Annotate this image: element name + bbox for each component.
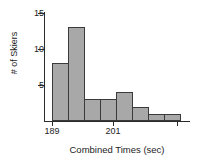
- x-axis-title: Combined Times (sec): [44, 144, 190, 155]
- bar-bin-1: [52, 63, 69, 121]
- y-axis-title: # of Skiers: [9, 15, 19, 91]
- bar-series: [0, 0, 201, 164]
- bar-bin-5: [116, 92, 133, 121]
- bar-bin-3: [84, 99, 101, 121]
- bar-bin-7: [148, 114, 165, 121]
- bar-bin-8: [164, 114, 181, 121]
- bar-bin-4: [100, 99, 117, 121]
- plot-area: 15 10 5 189 201 # of Ski: [0, 0, 201, 164]
- bar-bin-2: [68, 27, 85, 121]
- bar-bin-6: [132, 107, 149, 121]
- histogram-figure: 15 10 5 189 201 # of Ski: [0, 0, 201, 164]
